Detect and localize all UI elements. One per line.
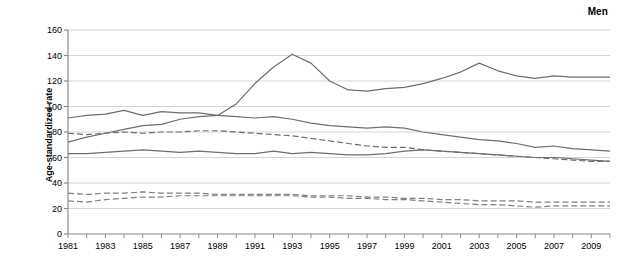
- series-line-series-4-solid-lower: [68, 150, 610, 161]
- x-axis-tick-label: 1995: [320, 241, 340, 251]
- y-axis-tick-label: 80: [52, 127, 62, 137]
- x-axis-ticks: [68, 234, 610, 238]
- x-axis-tick-label: 1987: [170, 241, 190, 251]
- y-axis-tick-label: 20: [52, 204, 62, 214]
- series-line-series-1-solid-peaked: [68, 54, 610, 142]
- x-axis-tick-label: 2009: [581, 241, 601, 251]
- x-axis-tick-label: 2007: [544, 241, 564, 251]
- page-title: Men: [588, 6, 608, 17]
- y-axis-tick-label: 100: [47, 102, 62, 112]
- x-axis-tick-label: 2001: [432, 241, 452, 251]
- series-line-series-2-solid-upper: [68, 110, 610, 151]
- x-axis-tick-label: 1993: [282, 241, 302, 251]
- x-axis-tick-label: 1983: [95, 241, 115, 251]
- y-axis-tick-label: 120: [47, 76, 62, 86]
- y-axis-tick-label: 140: [47, 51, 62, 61]
- chart-svg: [68, 30, 610, 234]
- gridlines: [64, 30, 610, 234]
- chart-container: Men Age-standardized rate 02040608010012…: [0, 0, 618, 270]
- y-axis-tick-label: 0: [57, 229, 62, 239]
- x-axis-tick-label: 1999: [394, 241, 414, 251]
- x-axis-tick-label: 2005: [507, 241, 527, 251]
- y-axis-tick-label: 40: [52, 178, 62, 188]
- plot-area: 020406080100120140160 198119831985198719…: [68, 30, 610, 234]
- x-axis-tick-label: 1985: [133, 241, 153, 251]
- data-series: [68, 54, 610, 207]
- x-axis-tick-label: 1997: [357, 241, 377, 251]
- x-axis-tick-label: 2003: [469, 241, 489, 251]
- y-axis-tick-label: 160: [47, 25, 62, 35]
- x-axis-tick-label: 1981: [58, 241, 78, 251]
- x-axis-tick-label: 1989: [208, 241, 228, 251]
- y-axis-tick-label: 60: [52, 153, 62, 163]
- x-axis-tick-label: 1991: [245, 241, 265, 251]
